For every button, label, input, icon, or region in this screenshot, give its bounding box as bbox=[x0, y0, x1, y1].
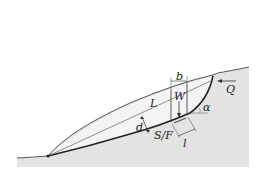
label-Q: Q bbox=[226, 83, 235, 96]
label-d: d bbox=[136, 121, 143, 134]
label-W: W bbox=[174, 90, 187, 103]
slope-stability-diagram: b W Q L α d S/F l bbox=[0, 0, 265, 181]
label-L: L bbox=[149, 97, 157, 110]
label-alpha: α bbox=[203, 101, 211, 114]
label-b: b bbox=[176, 70, 183, 83]
label-l: l bbox=[183, 137, 187, 150]
label-SF: S/F bbox=[154, 129, 173, 142]
toe-point bbox=[47, 155, 50, 158]
